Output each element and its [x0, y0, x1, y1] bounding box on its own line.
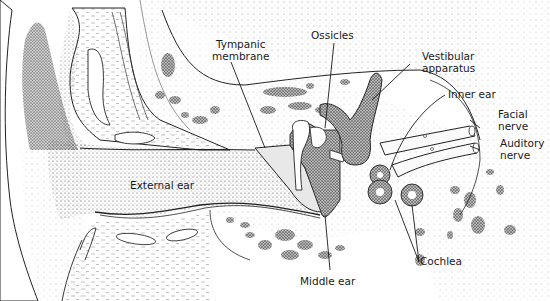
cartilage-lower: [62, 210, 250, 301]
label-line: apparatus: [422, 62, 475, 74]
label-facial-nerve: Facial nerve: [498, 108, 528, 132]
ear-anatomy-diagram: Tympanic membrane Ossicles Vestibular ap…: [0, 0, 550, 301]
label-line: nerve: [500, 149, 545, 161]
label-line: nerve: [498, 120, 528, 132]
label-line: Tympanic: [212, 38, 269, 50]
label-inner-ear: Inner ear: [448, 88, 496, 100]
label-line: Facial: [498, 108, 528, 120]
label-vestibular-apparatus: Vestibular apparatus: [422, 50, 475, 74]
label-line: Auditory: [500, 137, 545, 149]
label-auditory-nerve: Auditory nerve: [500, 137, 545, 161]
label-external-ear: External ear: [130, 179, 194, 191]
label-tympanic-membrane: Tympanic membrane: [212, 38, 269, 62]
label-middle-ear: Middle ear: [300, 275, 355, 287]
ear-illustration: [0, 0, 550, 301]
label-ossicles: Ossicles: [311, 29, 354, 41]
label-line: membrane: [212, 50, 269, 62]
label-line: Vestibular: [422, 50, 475, 62]
label-cochlea: Cochlea: [420, 255, 462, 267]
